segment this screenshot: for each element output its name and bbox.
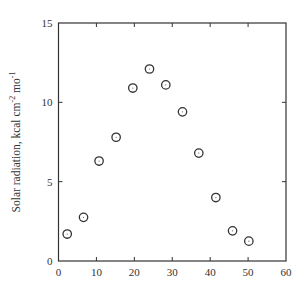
data-point-center	[232, 230, 233, 231]
data-points	[63, 65, 253, 246]
y-tick-label: 15	[42, 17, 54, 29]
x-axis: 0102030405060	[56, 23, 292, 278]
x-tick-label: 20	[129, 266, 141, 278]
data-point-center	[83, 217, 84, 218]
x-tick-label: 10	[91, 266, 103, 278]
data-point-center	[116, 137, 117, 138]
y-tick-label: 0	[47, 255, 53, 267]
y-axis: 051015	[42, 17, 287, 267]
plot-frame	[59, 23, 287, 261]
data-point-center	[149, 68, 150, 69]
data-point-center	[215, 197, 216, 198]
scatter-chart: 0102030405060 051015 Solar radiation, kc…	[0, 0, 307, 293]
x-tick-label: 60	[281, 266, 293, 278]
y-tick-label: 5	[47, 176, 53, 188]
plot-border	[59, 23, 287, 261]
x-tick-label: 40	[205, 266, 217, 278]
data-point-center	[182, 111, 183, 112]
x-tick-label: 0	[56, 266, 62, 278]
x-tick-label: 30	[167, 266, 179, 278]
y-tick-label: 10	[42, 96, 54, 108]
data-point-center	[165, 84, 166, 85]
data-point-center	[67, 233, 68, 234]
data-point-center	[198, 153, 199, 154]
x-tick-label: 50	[243, 266, 255, 278]
data-point-center	[98, 160, 99, 161]
y-axis-label: Solar radiation, kcal cm-2 mo-1	[8, 72, 23, 213]
data-point-center	[132, 87, 133, 88]
data-point-center	[248, 241, 249, 242]
